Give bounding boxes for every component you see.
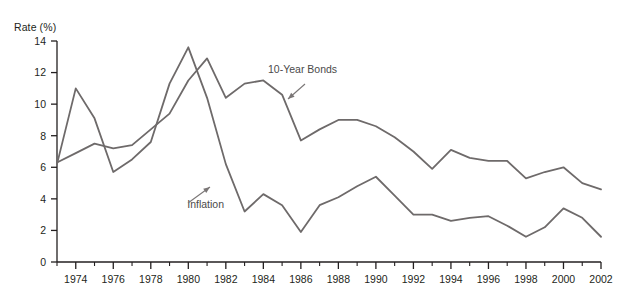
chart-figure: Rate (%) 02468101214 1974197619781980198… bbox=[0, 0, 623, 297]
x-axis-ticks: 1974197619781980198219841986198819901992… bbox=[57, 262, 613, 285]
data-series-group bbox=[57, 47, 601, 236]
line-chart-plot: 02468101214 1974197619781980198219841986… bbox=[0, 0, 623, 297]
x-tick-label: 1974 bbox=[64, 273, 88, 285]
x-tick-label: 1978 bbox=[139, 273, 163, 285]
annotation-arrowhead-inflation bbox=[203, 187, 210, 193]
series-label-10-year-bonds: 10-Year Bonds bbox=[268, 63, 337, 75]
y-tick-label: 14 bbox=[34, 35, 46, 47]
x-tick-label: 1976 bbox=[102, 273, 126, 285]
x-tick-label: 1996 bbox=[477, 273, 501, 285]
y-tick-label: 4 bbox=[40, 193, 46, 205]
x-tick-label: 1998 bbox=[514, 273, 538, 285]
y-tick-label: 6 bbox=[40, 161, 46, 173]
x-tick-label: 2002 bbox=[589, 273, 613, 285]
x-tick-label: 1984 bbox=[252, 273, 276, 285]
series-annotations: 10-Year BondsInflation bbox=[187, 63, 337, 210]
series-line-inflation bbox=[57, 47, 601, 236]
x-tick-label: 2000 bbox=[552, 273, 576, 285]
y-tick-label: 12 bbox=[34, 66, 46, 78]
y-axis-ticks: 02468101214 bbox=[34, 35, 57, 268]
x-tick-label: 1982 bbox=[214, 273, 238, 285]
x-tick-label: 1980 bbox=[177, 273, 201, 285]
series-line-10-year-bonds bbox=[57, 58, 601, 189]
y-tick-label: 8 bbox=[40, 130, 46, 142]
y-tick-label: 0 bbox=[40, 256, 46, 268]
y-tick-label: 10 bbox=[34, 98, 46, 110]
x-tick-label: 1994 bbox=[439, 273, 463, 285]
x-tick-label: 1986 bbox=[289, 273, 313, 285]
y-tick-label: 2 bbox=[40, 224, 46, 236]
x-tick-label: 1990 bbox=[364, 273, 388, 285]
y-axis-title: Rate (%) bbox=[14, 21, 56, 33]
x-tick-label: 1992 bbox=[402, 273, 426, 285]
x-tick-label: 1988 bbox=[327, 273, 351, 285]
